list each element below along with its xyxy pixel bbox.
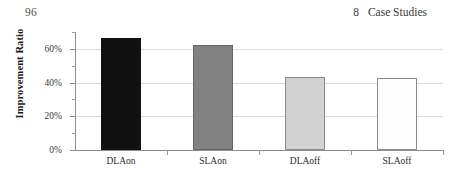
x-axis-label-slaon: SLAon	[199, 156, 226, 166]
page-number: 96	[25, 6, 37, 18]
plot-area: 0%20%40%60%DLAonSLAonDLAoffSLAoff	[75, 32, 443, 150]
y-axis-tick-label: 60%	[45, 44, 62, 54]
chapter-reference: 8Case Studies	[353, 6, 427, 18]
x-axis-label-dlaon: DLAon	[106, 156, 135, 166]
bar-dlaon	[101, 38, 141, 150]
x-axis-tick	[167, 150, 168, 155]
y-axis-minor-tick	[72, 133, 76, 134]
x-axis-tick	[259, 150, 260, 155]
x-axis-label-slaoff: SLAoff	[383, 156, 412, 166]
x-axis-tick	[351, 150, 352, 155]
bar-slaoff	[377, 78, 417, 150]
y-axis-tick: 40%	[70, 83, 76, 84]
chapter-title: Case Studies	[368, 6, 427, 18]
y-axis-tick-label: 0%	[49, 145, 62, 155]
y-axis-title: Improvement Ratio	[14, 14, 25, 134]
y-axis-tick: 60%	[70, 49, 76, 50]
y-axis-minor-tick	[72, 66, 76, 67]
y-axis-tick-label: 20%	[45, 111, 62, 121]
bar-chart-figure: Improvement Ratio 0%20%40%60%DLAonSLAonD…	[0, 24, 451, 181]
x-axis-tick	[443, 150, 444, 155]
x-axis-label-dlaoff: DLAoff	[290, 156, 320, 166]
y-axis-tick: 20%	[70, 116, 76, 117]
chapter-number: 8	[353, 6, 359, 18]
y-axis-minor-tick	[72, 99, 76, 100]
bar-slaon	[193, 45, 233, 150]
y-axis-minor-tick	[72, 32, 76, 33]
bar-dlaoff	[285, 77, 325, 150]
page-header: 96 8Case Studies	[0, 6, 451, 22]
y-axis-tick: 0%	[70, 150, 76, 151]
y-axis-tick-label: 40%	[45, 77, 62, 87]
